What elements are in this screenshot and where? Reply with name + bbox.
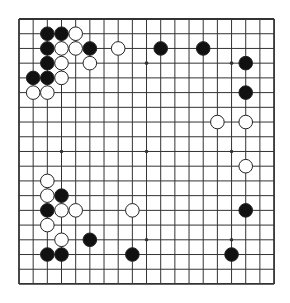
black-stone <box>225 248 239 262</box>
black-stone <box>239 86 253 100</box>
white-stone <box>55 71 69 85</box>
star-point <box>145 150 149 154</box>
black-stone <box>154 42 168 56</box>
black-stone <box>55 248 69 262</box>
white-stone <box>55 56 69 70</box>
white-stone <box>239 115 253 129</box>
black-stone <box>196 42 210 56</box>
black-stone <box>55 189 69 203</box>
stones-layer <box>26 27 252 261</box>
white-stone <box>26 86 40 100</box>
white-stone <box>111 42 125 56</box>
white-stone <box>69 204 83 218</box>
black-stone <box>83 233 97 247</box>
white-stone <box>211 115 225 129</box>
star-point <box>145 238 149 242</box>
white-stone <box>41 218 55 232</box>
black-stone <box>83 42 97 56</box>
white-stone <box>41 86 55 100</box>
black-stone <box>26 71 40 85</box>
black-stone <box>41 204 55 218</box>
white-stone <box>69 27 83 41</box>
white-stone <box>69 42 83 56</box>
star-point <box>230 238 234 242</box>
black-stone <box>126 248 140 262</box>
black-stone <box>239 56 253 70</box>
white-stone <box>126 204 140 218</box>
black-stone <box>41 27 55 41</box>
white-stone <box>83 56 97 70</box>
star-point <box>60 150 64 154</box>
white-stone <box>55 233 69 247</box>
black-stone <box>239 204 253 218</box>
star-point <box>230 61 234 65</box>
white-stone <box>41 174 55 188</box>
black-stone <box>41 42 55 56</box>
white-stone <box>55 42 69 56</box>
black-stone <box>41 248 55 262</box>
black-stone <box>55 27 69 41</box>
black-stone <box>41 71 55 85</box>
white-stone <box>41 189 55 203</box>
black-stone <box>41 56 55 70</box>
white-stone <box>239 159 253 173</box>
white-stone <box>55 204 69 218</box>
star-point <box>230 150 234 154</box>
go-board[interactable] <box>0 0 290 303</box>
star-point <box>145 61 149 65</box>
